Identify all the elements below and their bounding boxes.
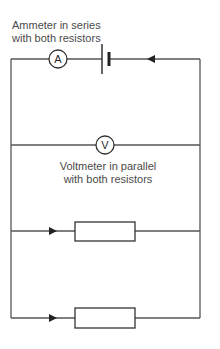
voltmeter-caption-line1: Voltmeter in parallel: [58, 160, 158, 173]
ammeter-caption: Ammeter in series with both resistors: [12, 19, 100, 45]
resistor-1-icon: [75, 222, 135, 241]
voltmeter-caption: Voltmeter in parallel with both resistor…: [58, 160, 158, 186]
ammeter-symbol: A: [54, 53, 62, 65]
resistor-2-icon: [75, 308, 135, 328]
battery-cell-icon: [102, 44, 109, 74]
ammeter-caption-line2: with both resistors: [12, 32, 100, 45]
ammeter-caption-line1: Ammeter in series: [12, 19, 100, 32]
voltmeter-caption-line2: with both resistors: [58, 173, 158, 186]
current-arrow-resistor2-icon: [49, 314, 57, 322]
current-arrow-resistor1-icon: [49, 227, 57, 235]
voltmeter-symbol: V: [101, 139, 109, 151]
voltmeter: V: [96, 136, 114, 154]
ammeter: A: [49, 50, 67, 68]
current-arrow-top-icon: [147, 55, 155, 63]
